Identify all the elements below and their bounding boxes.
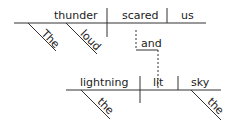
verb-word: lit — [153, 77, 163, 88]
object-word: us — [181, 10, 194, 21]
diagram-lines — [0, 0, 234, 125]
subject-word: thunder — [54, 10, 98, 21]
subject-word: lightning — [80, 77, 128, 88]
verb-word: scared — [122, 10, 159, 21]
conjunction-word: and — [141, 38, 162, 49]
object-word: sky — [191, 77, 209, 88]
